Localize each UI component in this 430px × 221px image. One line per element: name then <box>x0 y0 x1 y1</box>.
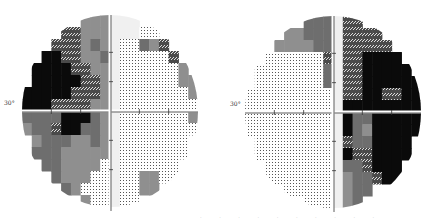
degree-label-30: 30° <box>4 99 15 106</box>
grayscale-map <box>0 0 215 221</box>
grayscale-map <box>215 0 430 221</box>
degree-label-30: 30° <box>230 100 241 107</box>
left-visual-field-plot: 30° <box>0 0 215 221</box>
right-visual-field-plot: 30° <box>215 0 430 221</box>
footer-text: · · · · · · · · · · <box>200 214 430 220</box>
